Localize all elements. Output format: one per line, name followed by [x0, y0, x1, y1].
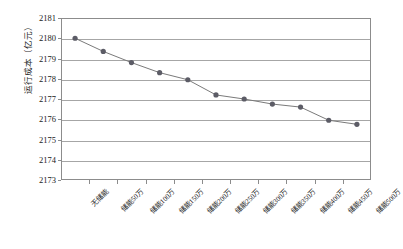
x-tick-label: 储能400万: [317, 186, 347, 216]
data-point: [270, 101, 275, 106]
y-tick-label: 2177: [39, 94, 56, 104]
data-point: [213, 92, 218, 97]
data-point: [101, 49, 106, 54]
data-point: [129, 60, 134, 65]
x-tick-label: 储能250万: [232, 186, 262, 216]
y-tick-label: 2180: [39, 33, 56, 43]
y-tick-label: 2181: [39, 13, 56, 23]
x-tick-label: 储能500万: [373, 186, 403, 216]
x-tick-mark: [174, 180, 175, 184]
x-tick-mark: [202, 180, 203, 184]
x-tick-mark: [117, 180, 118, 184]
data-point: [242, 96, 247, 101]
y-axis-ticks: 218121802179217821772176217521742173: [0, 0, 61, 249]
x-tick-label: 无储能: [88, 186, 110, 208]
y-tick-label: 2173: [39, 175, 56, 185]
x-tick-mark: [286, 180, 287, 184]
x-tick-label: 储能50万: [119, 186, 146, 213]
x-tick-label: 储能450万: [345, 186, 375, 216]
y-tick-mark: [58, 180, 61, 181]
data-point: [185, 77, 190, 82]
series-layer: [61, 18, 371, 180]
x-tick-mark: [343, 180, 344, 184]
data-point: [72, 36, 77, 41]
y-tick-label: 2178: [39, 74, 56, 84]
y-tick-label: 2176: [39, 114, 56, 124]
y-tick-label: 2174: [39, 155, 56, 165]
x-tick-mark: [230, 180, 231, 184]
x-tick-mark: [315, 180, 316, 184]
series-line: [75, 38, 357, 124]
data-point: [298, 105, 303, 110]
data-point: [157, 70, 162, 75]
x-tick-mark: [89, 180, 90, 184]
x-tick-label: 储能200万: [204, 186, 234, 216]
y-tick-label: 2175: [39, 135, 56, 145]
x-tick-label: 储能300万: [260, 186, 290, 216]
x-tick-label: 储能350万: [289, 186, 319, 216]
x-tick-mark: [146, 180, 147, 184]
series-markers: [72, 36, 359, 127]
data-point: [326, 118, 331, 123]
x-tick-mark: [258, 180, 259, 184]
x-tick-label: 储能150万: [176, 186, 206, 216]
y-tick-label: 2179: [39, 54, 56, 64]
data-point: [354, 122, 359, 127]
x-tick-label: 储能100万: [148, 186, 178, 216]
